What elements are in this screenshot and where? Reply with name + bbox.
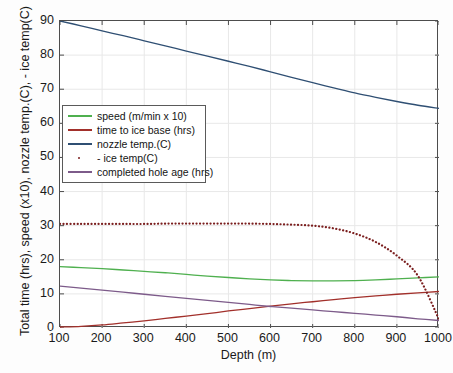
legend-item[interactable]: time to ice base (hrs) xyxy=(63,123,205,137)
y-tick-label: 70 xyxy=(8,82,54,94)
legend-swatch-icon xyxy=(67,110,93,122)
y-tick-label: 60 xyxy=(8,116,54,128)
series-line-0 xyxy=(60,267,439,281)
series-line-1 xyxy=(60,292,439,327)
legend-item[interactable]: - ice temp(C) xyxy=(63,151,205,165)
legend-label: time to ice base (hrs) xyxy=(97,124,195,136)
legend-swatch-icon xyxy=(67,166,93,178)
x-axis-title: Depth (m) xyxy=(59,348,438,362)
legend-line-marker xyxy=(68,171,92,173)
legend-label: speed (m/min x 10) xyxy=(97,110,187,122)
legend-swatch-icon xyxy=(67,138,93,150)
y-tick-label: 10 xyxy=(8,287,54,299)
legend-line-marker xyxy=(68,115,92,117)
x-axis-tick-labels: 1002003004005006007008009001000 xyxy=(59,331,438,349)
series-line-4 xyxy=(60,286,439,320)
legend-item[interactable]: speed (m/min x 10) xyxy=(63,109,205,123)
chart-legend: speed (m/min x 10)time to ice base (hrs)… xyxy=(62,105,206,183)
x-tick-label: 1000 xyxy=(408,331,453,345)
legend-item[interactable]: completed hole age (hrs) xyxy=(63,165,205,179)
y-tick-label: 30 xyxy=(8,219,54,231)
y-tick-label: 50 xyxy=(8,150,54,162)
legend-line-marker xyxy=(68,129,92,131)
legend-label: completed hole age (hrs) xyxy=(97,166,213,178)
y-tick-label: 80 xyxy=(8,48,54,60)
legend-label: nozzle temp.(C) xyxy=(97,138,171,150)
legend-line-marker xyxy=(68,143,92,145)
y-axis-tick-labels: 0102030405060708090 xyxy=(6,20,54,327)
series-line-2 xyxy=(60,21,439,108)
legend-dot-marker xyxy=(78,157,80,159)
y-tick-label: 40 xyxy=(8,185,54,197)
y-tick-label: 90 xyxy=(8,14,54,26)
chart-figure: Total time (hrs), speed (x10), nozzle te… xyxy=(0,0,453,373)
y-tick-label: 20 xyxy=(8,253,54,265)
legend-item[interactable]: nozzle temp.(C) xyxy=(63,137,205,151)
legend-swatch-icon xyxy=(67,124,93,136)
legend-swatch-icon xyxy=(67,152,93,164)
legend-label: - ice temp(C) xyxy=(97,152,158,164)
